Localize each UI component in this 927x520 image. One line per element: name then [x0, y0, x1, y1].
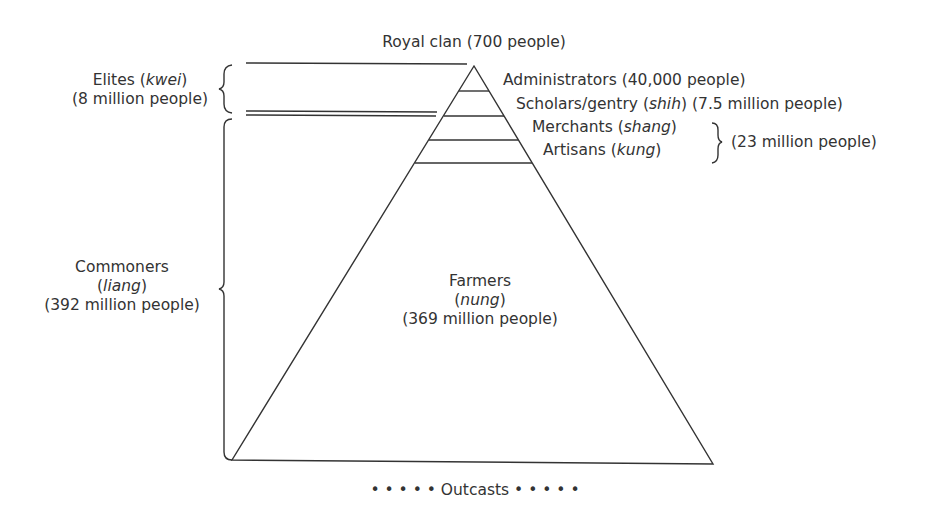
farmers-name: Farmers [380, 272, 580, 291]
artisans-name: Artisans [543, 141, 606, 159]
administrators-label: Administrators (40,000 people) [503, 71, 745, 90]
administrators-name: Administrators [503, 71, 617, 89]
royal-clan-text: Royal clan (700 people) [382, 33, 566, 51]
farmers-term: nung [460, 291, 499, 309]
commoners-label: Commoners (liang) (392 million people) [32, 258, 212, 315]
commoners-name: Commoners [32, 258, 212, 277]
dots-left: • • • • • [370, 481, 435, 499]
group-pop-text: (23 million people) [731, 133, 877, 151]
paren: ) [671, 118, 677, 136]
elites-top-rule [246, 63, 467, 64]
paren: ) [655, 141, 661, 159]
commoners-term: liang [103, 277, 141, 295]
commoners-pop: (392 million people) [32, 296, 212, 315]
merchants-term: shang [624, 118, 671, 136]
elites-bottom-rule-2 [246, 115, 436, 116]
royal-clan-label: Royal clan (700 people) [374, 33, 574, 52]
elites-term: kwei [146, 71, 182, 89]
paren: ) [500, 291, 506, 309]
merchants-artisans-pop-label: (23 million people) [731, 133, 877, 152]
paren: ) [141, 277, 147, 295]
outcasts-text: Outcasts [441, 481, 509, 499]
commoners-brace [219, 119, 232, 460]
artisans-term: kung [617, 141, 655, 159]
scholars-label: Scholars/gentry (shih) (7.5 million peop… [516, 95, 843, 114]
scholars-pop: (7.5 million people) [692, 95, 843, 113]
elites-bottom-rule-1 [246, 111, 437, 112]
artisans-label: Artisans (kung) [543, 141, 661, 160]
dots-right: • • • • • [514, 481, 579, 499]
pyramid-diagram: Royal clan (700 people) Administrators (… [0, 0, 927, 520]
paren: ) [181, 71, 187, 89]
elites-pop: (8 million people) [55, 90, 225, 109]
administrators-pop: (40,000 people) [622, 71, 746, 89]
merchants-name: Merchants [532, 118, 613, 136]
elites-name: Elites [93, 71, 135, 89]
scholars-term: shih [649, 95, 681, 113]
farmers-pop: (369 million people) [380, 310, 580, 329]
merchants-label: Merchants (shang) [532, 118, 677, 137]
paren: ) [681, 95, 687, 113]
elites-label: Elites (kwei) (8 million people) [55, 71, 225, 109]
farmers-label: Farmers (nung) (369 million people) [380, 272, 580, 329]
outcasts-label: • • • • • Outcasts • • • • • [330, 481, 620, 500]
merchants-artisans-brace [712, 123, 722, 163]
scholars-name: Scholars/gentry [516, 95, 638, 113]
